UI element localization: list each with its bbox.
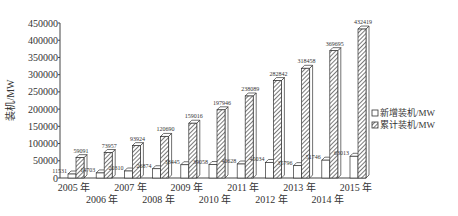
data-label-cumulative: 59091 <box>74 148 89 154</box>
bar <box>96 173 104 178</box>
data-label-cumulative: 93924 <box>130 136 145 142</box>
bar-chart: 0500001000001500002000002500003000003500… <box>0 0 458 216</box>
bar <box>245 96 253 178</box>
bar <box>217 110 225 178</box>
bars: 1153159091147037395720310939242687412069… <box>52 19 372 178</box>
data-label-new: 39058 <box>193 159 208 165</box>
bar <box>358 29 366 178</box>
x-tick-label: 2013 年 <box>283 181 316 193</box>
data-label-cumulative: 369695 <box>326 41 344 47</box>
legend-swatch-new <box>372 110 378 116</box>
x-tick-label: 2007 年 <box>114 181 147 193</box>
y-axis-label: 装机/MW <box>4 79 16 121</box>
bar <box>294 166 302 178</box>
bar <box>330 51 338 178</box>
data-label-cumulative: 73957 <box>102 143 117 149</box>
bar <box>153 169 161 178</box>
bar <box>237 164 245 178</box>
data-label-cumulative: 197946 <box>213 100 231 106</box>
legend-label-cumulative: 累计装机/MW <box>380 119 436 130</box>
bar <box>189 123 197 178</box>
data-label-new: 45034 <box>249 156 264 162</box>
data-label-new: 11531 <box>52 168 67 174</box>
bar <box>350 156 358 178</box>
y-tick-label: 450000 <box>28 18 58 29</box>
data-label-new: 35796 <box>278 160 293 166</box>
bar <box>161 136 169 178</box>
y-tick-label: 250000 <box>28 86 58 97</box>
x-tick-label: 2010 年 <box>199 193 232 205</box>
y-tick-label: 400000 <box>28 35 58 46</box>
data-label-cumulative: 282842 <box>269 71 287 77</box>
data-label-new: 26874 <box>137 163 152 169</box>
data-label-cumulative: 318458 <box>298 58 316 64</box>
legend-swatch-cumulative <box>372 122 378 128</box>
data-label-cumulative: 238089 <box>241 86 259 92</box>
y-tick-label: 100000 <box>28 138 58 149</box>
x-tick-label: 2014 年 <box>312 193 345 205</box>
x-tick-label: 2005 年 <box>58 181 91 193</box>
data-label-cumulative: 432419 <box>354 19 372 25</box>
bar <box>265 162 273 178</box>
data-label-cumulative: 159016 <box>185 113 203 119</box>
data-label-new: 20310 <box>108 165 123 171</box>
bar <box>302 68 310 178</box>
x-tick-label: 2006 年 <box>86 193 119 205</box>
data-label-new: 51746 <box>306 154 321 160</box>
x-tick-label: 2009 年 <box>171 181 204 193</box>
bar <box>209 165 217 178</box>
bar <box>322 160 330 178</box>
data-label-new: 63013 <box>334 150 349 156</box>
legend: 新增装机/MW累计装机/MW <box>372 107 436 130</box>
legend-label-new: 新增装机/MW <box>380 107 436 118</box>
y-tick-label: 350000 <box>28 52 58 63</box>
y-tick-label: 150000 <box>28 121 58 132</box>
bar <box>68 174 76 178</box>
x-tick-label: 2008 年 <box>142 193 175 205</box>
x-tick-label: 2012 年 <box>255 193 288 205</box>
bar <box>124 171 132 178</box>
y-tick-label: 200000 <box>28 104 58 115</box>
data-label-new: 40628 <box>221 158 236 164</box>
y-tick-label: 300000 <box>28 69 58 80</box>
data-label-new: 38445 <box>165 159 180 165</box>
x-tick-label: 2015 年 <box>340 181 373 193</box>
data-label-cumulative: 120690 <box>157 126 175 132</box>
data-label-new: 14703 <box>80 167 95 173</box>
x-tick-label: 2011 年 <box>227 181 259 193</box>
bar <box>181 165 189 178</box>
y-tick-label: 50000 <box>33 155 58 166</box>
